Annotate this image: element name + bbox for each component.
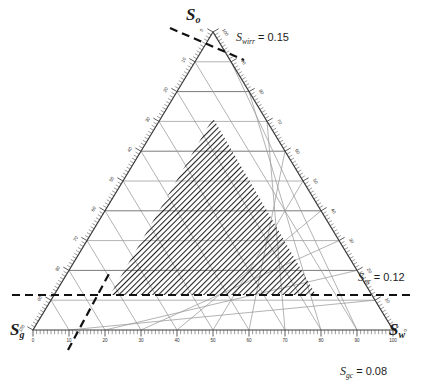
annotation-subscript-sgc: gc bbox=[346, 371, 353, 380]
svg-text:80: 80 bbox=[258, 88, 265, 95]
svg-text:10: 10 bbox=[180, 56, 187, 63]
annotation-subscript-sor: or bbox=[364, 277, 371, 286]
svg-text:80: 80 bbox=[54, 265, 61, 272]
svg-text:90: 90 bbox=[354, 338, 360, 343]
vertex-label-so: So bbox=[186, 5, 200, 25]
constraint-line-swirr bbox=[170, 28, 244, 60]
shaded-feasible-region bbox=[110, 118, 316, 295]
svg-text:60: 60 bbox=[90, 205, 97, 212]
svg-text:20: 20 bbox=[102, 338, 108, 343]
svg-text:30: 30 bbox=[144, 116, 151, 123]
svg-text:40: 40 bbox=[330, 208, 337, 215]
ternary-plot-canvas: 0102030405060708090100100908070605040302… bbox=[0, 0, 426, 391]
vertex-subscript-so: o bbox=[195, 14, 200, 25]
annotation-sor: Sor = 0.12 bbox=[358, 270, 405, 285]
svg-text:70: 70 bbox=[72, 235, 79, 242]
vertex-subscript-sg: g bbox=[19, 329, 24, 340]
svg-text:50: 50 bbox=[210, 338, 216, 343]
svg-text:30: 30 bbox=[138, 338, 144, 343]
annotation-sgc: Sgc = 0.08 bbox=[340, 364, 387, 379]
svg-text:0: 0 bbox=[199, 28, 205, 33]
annotation-swirr: Swirr = 0.15 bbox=[236, 30, 289, 45]
svg-text:10: 10 bbox=[66, 338, 72, 343]
svg-text:50: 50 bbox=[108, 175, 115, 182]
annotation-value-sgc: = 0.08 bbox=[353, 365, 387, 377]
svg-text:40: 40 bbox=[174, 338, 180, 343]
svg-text:90: 90 bbox=[240, 59, 247, 66]
vertex-label-sg: Sg bbox=[10, 320, 24, 340]
svg-text:30: 30 bbox=[348, 237, 355, 244]
svg-text:70: 70 bbox=[276, 118, 283, 125]
annotation-subscript-swirr: wirr bbox=[242, 37, 255, 46]
svg-text:80: 80 bbox=[318, 338, 324, 343]
svg-text:60: 60 bbox=[246, 338, 252, 343]
svg-text:20: 20 bbox=[162, 86, 169, 93]
svg-text:70: 70 bbox=[282, 338, 288, 343]
vertex-label-sw: Sw bbox=[389, 320, 405, 340]
svg-text:50: 50 bbox=[312, 178, 319, 185]
ternary-diagram-figure: 0102030405060708090100100908070605040302… bbox=[0, 0, 426, 391]
svg-text:10: 10 bbox=[384, 297, 391, 304]
vertex-subscript-sw: w bbox=[398, 329, 405, 340]
svg-text:0: 0 bbox=[32, 338, 35, 343]
annotation-value-swirr: = 0.15 bbox=[255, 31, 289, 43]
svg-text:100: 100 bbox=[221, 28, 229, 38]
annotation-value-sor: = 0.12 bbox=[371, 271, 405, 283]
svg-text:60: 60 bbox=[294, 148, 301, 155]
svg-text:40: 40 bbox=[126, 146, 133, 153]
